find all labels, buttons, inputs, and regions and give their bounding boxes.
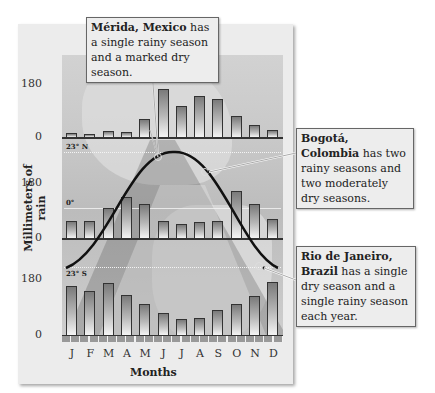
y-axis-label: Millimeters of rain: [22, 153, 48, 263]
merida-callout-place: Mérida, Mexico: [91, 21, 187, 34]
month-label: J: [65, 347, 79, 360]
month-label: S: [211, 347, 225, 360]
month-label: N: [248, 347, 262, 360]
month-label: A: [120, 347, 134, 360]
x-axis-label: Months: [130, 366, 177, 379]
rio-ytick-180: 180: [12, 272, 42, 285]
month-label: M: [138, 347, 152, 360]
rio-callout: Rio de Janeiro, Brazil has a single dry …: [296, 246, 416, 327]
month-label: O: [230, 347, 244, 360]
merida-ytick-180: 180: [12, 77, 42, 90]
month-label: F: [83, 347, 97, 360]
month-label: A: [193, 347, 207, 360]
merida-ytick-0: 0: [12, 130, 42, 143]
month-label: J: [157, 347, 171, 360]
rio-ytick-0: 0: [12, 328, 42, 341]
month-label: M: [102, 347, 116, 360]
month-label: J: [175, 347, 189, 360]
rio-callout-place-line2: Brazil: [301, 265, 338, 278]
merida-callout: Mérida, Mexico has a single rainy season…: [86, 17, 219, 83]
month-label: D: [266, 347, 280, 360]
bogota-callout-place: Bogotá, Colombia: [301, 132, 359, 160]
bogota-callout: Bogotá, Colombia has two rainy seasons a…: [296, 128, 414, 209]
rio-callout-place-line1: Rio de Janeiro,: [301, 250, 392, 263]
